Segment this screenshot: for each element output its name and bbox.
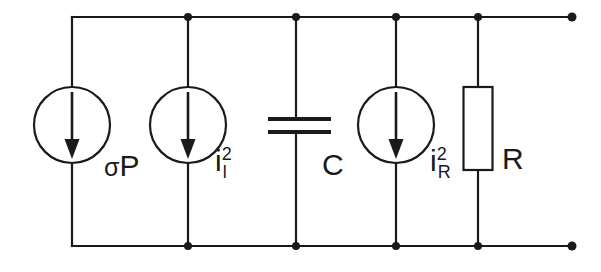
label-i-r-superscript: 2 — [437, 144, 447, 164]
label-resistor-r: R — [502, 144, 524, 174]
terminal-dot-top-right — [568, 13, 577, 22]
label-current-source-i-leak: i2l — [215, 146, 227, 176]
terminal-dot-bottom-right — [568, 242, 577, 251]
label-i-leak-superscript: 2 — [222, 144, 232, 164]
label-sigma-glyph: σ — [104, 153, 119, 181]
circuit-diagram: σP i2l C i2R R — [0, 0, 601, 272]
label-p-glyph: P — [119, 149, 139, 182]
label-i-glyph: i — [430, 144, 437, 177]
circuit-schematic-svg — [0, 0, 601, 272]
junction-dots — [184, 13, 482, 250]
label-current-source-sigma-p: σP — [104, 151, 139, 181]
label-i-r-subscript: R — [438, 162, 451, 182]
label-i-leak-subscript: l — [223, 162, 227, 182]
current-source-i-r — [358, 87, 434, 163]
label-current-source-i-r: i2R — [430, 146, 451, 176]
current-source-sigma-p — [34, 87, 110, 163]
capacitor-c — [268, 119, 331, 132]
resistor-r — [464, 87, 493, 170]
label-i-glyph: i — [215, 144, 222, 177]
label-capacitor-c: C — [322, 150, 344, 180]
